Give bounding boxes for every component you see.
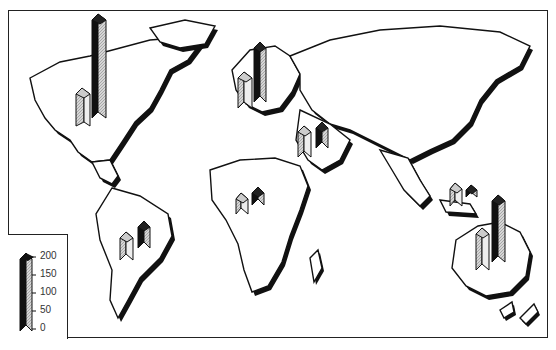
world-map [0, 0, 556, 350]
new-zealand [520, 304, 540, 327]
south-america [96, 188, 175, 322]
southeast-asia [380, 150, 479, 218]
legend-box: 200 150 100 50 0 [8, 234, 68, 339]
legend-tick-50: 50 [40, 304, 51, 315]
central-america [92, 160, 121, 188]
legend-tick-200: 200 [40, 250, 57, 261]
bar-europe-light [238, 72, 252, 108]
bar-north-america-light [76, 88, 90, 126]
bar-australia-light [476, 228, 489, 270]
legend-tick-150: 150 [40, 268, 57, 279]
bar-north-america-dark [92, 14, 106, 118]
legend-tick-0: 0 [40, 322, 46, 333]
bar-southeast-asia-dark [466, 185, 477, 197]
bar-europe-dark [254, 42, 266, 102]
bar-australia-dark [492, 195, 505, 262]
legend-scale-bar [8, 235, 68, 340]
legend-tick-100: 100 [40, 286, 57, 297]
north-america [30, 20, 218, 166]
africa [210, 158, 324, 296]
